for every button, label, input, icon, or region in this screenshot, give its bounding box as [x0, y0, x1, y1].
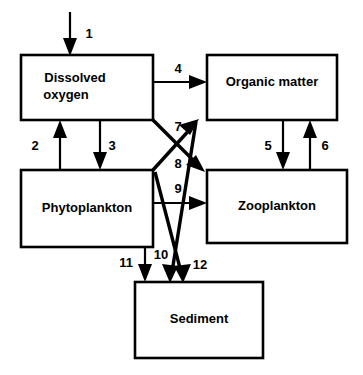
flow-8-label: 8	[174, 156, 181, 171]
flow-3-label: 3	[108, 138, 115, 153]
box-zooplankton: Zooplankton	[207, 170, 347, 243]
flow-1-label: 1	[85, 26, 92, 41]
flow-9-label: 9	[174, 181, 181, 196]
box-dissolved-oxygen-label-line2: oxygen	[43, 87, 89, 102]
flow-2-label: 2	[31, 138, 38, 153]
flow-12-label: 12	[193, 257, 207, 272]
box-phytoplankton: Phytoplankton	[21, 170, 153, 247]
box-organic-matter: Organic matter	[207, 55, 337, 120]
flow-11-arrowhead	[138, 264, 152, 282]
flow-4-arrowhead	[189, 75, 207, 89]
flow-7-label: 7	[174, 119, 181, 134]
flow-7-line	[153, 127, 192, 170]
flow-1-arrowhead	[63, 38, 77, 56]
flow-6-label: 6	[321, 138, 328, 153]
flow-3-arrow	[93, 120, 107, 170]
box-organic-matter-label: Organic matter	[226, 74, 318, 89]
flow-5-label: 5	[264, 138, 271, 153]
flow-2-arrow	[53, 120, 67, 170]
flow-11-arrow	[138, 247, 152, 282]
flow-6-arrow	[303, 120, 317, 170]
flow-5-arrowhead	[276, 152, 290, 170]
diagram-canvas: Dissolved oxygen Organic matter Phytopla…	[0, 0, 363, 375]
flow-4-arrow	[153, 75, 207, 89]
flow-5-arrow	[276, 120, 290, 170]
ecosystem-flow-diagram: Dissolved oxygen Organic matter Phytopla…	[0, 0, 363, 375]
flow-6-arrowhead	[303, 120, 317, 138]
flow-3-arrowhead	[93, 152, 107, 170]
flow-1-arrow	[63, 12, 77, 56]
box-phytoplankton-label: Phytoplankton	[42, 200, 132, 215]
box-sediment: Sediment	[135, 282, 263, 358]
flow-11-label: 11	[119, 255, 133, 270]
box-sediment-label: Sediment	[170, 311, 229, 326]
flow-12-arrowhead	[174, 264, 191, 283]
flow-2-arrowhead	[53, 120, 67, 138]
box-zooplankton-label: Zooplankton	[238, 198, 316, 213]
box-dissolved-oxygen: Dissolved oxygen	[21, 55, 153, 120]
box-dissolved-oxygen-label-line1: Dissolved	[44, 70, 105, 85]
flow-10-label: 10	[154, 247, 168, 262]
flow-9-arrowhead	[189, 196, 207, 210]
flow-4-label: 4	[174, 61, 182, 76]
